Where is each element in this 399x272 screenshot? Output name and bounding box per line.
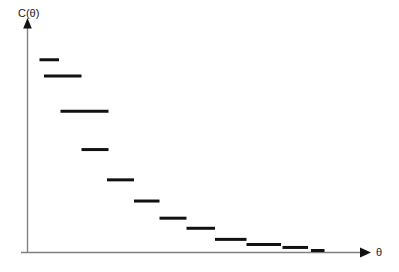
x-axis-label: θ [376, 247, 382, 258]
y-axis-label: C(θ) [18, 8, 39, 19]
step-function-plot [0, 0, 399, 272]
y-axis [23, 18, 32, 253]
y-axis-arrowhead [23, 18, 32, 29]
x-axis-arrowhead [360, 248, 371, 258]
chart-container: C(θ) θ [0, 0, 399, 272]
step-segments [40, 60, 325, 251]
